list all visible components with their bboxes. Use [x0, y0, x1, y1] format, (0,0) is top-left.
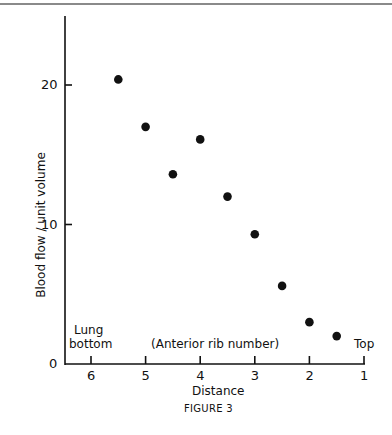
data-points	[114, 75, 341, 340]
data-point	[251, 230, 260, 239]
y-tick-label: 0	[49, 356, 57, 371]
data-point	[223, 192, 232, 201]
annotation-bottom: bottom	[69, 337, 112, 351]
x-tick-label: 1	[360, 368, 368, 383]
data-point	[169, 170, 178, 179]
x-tick-label: 3	[251, 368, 259, 383]
figure-caption: FIGURE 3	[184, 403, 233, 414]
x-axis-sublabel: (Anterior rib number)	[151, 337, 279, 351]
y-tick-label: 20	[41, 77, 58, 92]
data-point	[305, 318, 314, 327]
data-point	[141, 123, 150, 132]
data-point	[278, 282, 287, 291]
x-tick-label: 2	[305, 368, 313, 383]
y-tick-label: 10	[41, 217, 58, 232]
x-tick-label: 4	[196, 368, 204, 383]
x-tick-label: 5	[142, 368, 150, 383]
annotation-lung: Lung	[74, 323, 103, 337]
data-point	[196, 135, 205, 144]
data-point	[114, 75, 123, 84]
x-axis-label: Distance	[192, 384, 244, 398]
annotation-top: Top	[354, 337, 374, 351]
x-tick-label: 6	[87, 368, 95, 383]
axes	[65, 16, 365, 365]
data-point	[332, 332, 341, 341]
